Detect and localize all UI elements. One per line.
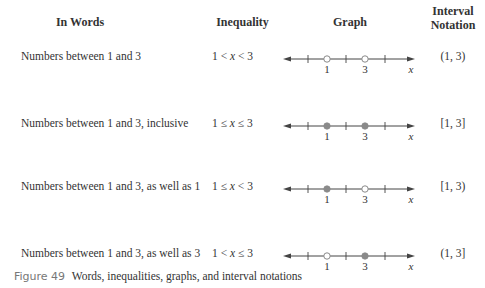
ineq-right: ≤ 3 <box>238 117 253 129</box>
tick-label-3: 3 <box>362 260 368 272</box>
right-arrow-icon <box>407 124 415 129</box>
row-interval-notation: [1, 3) <box>428 180 478 192</box>
row-inequality: 1 ≤ x ≤ 3 <box>212 117 253 129</box>
tick-label-3: 3 <box>362 193 368 205</box>
axis-variable-label: x <box>408 63 414 75</box>
header-interval-line1: Interval <box>428 4 478 18</box>
ineq-left: 1 < <box>212 50 227 62</box>
right-arrow-icon <box>407 57 415 62</box>
row-words: Numbers between 1 and 3, inclusive <box>21 117 188 129</box>
header-graph: Graph <box>320 15 380 29</box>
figure-label: Figure 49 <box>14 270 65 283</box>
caption-text: Words, inequalities, graphs, and interva… <box>72 270 302 282</box>
left-arrow-icon <box>283 124 291 129</box>
right-open-point <box>362 186 368 192</box>
tick-label-1: 1 <box>324 260 330 272</box>
header-inequality: Inequality <box>205 15 280 29</box>
row-inequality: 1 < x ≤ 3 <box>212 247 253 259</box>
row-interval-notation: (1, 3] <box>428 247 478 259</box>
ineq-right: ≤ 3 <box>238 247 253 259</box>
right-arrow-icon <box>407 187 415 192</box>
tick-label-1: 1 <box>324 63 330 75</box>
row-interval-notation: [1, 3] <box>428 117 478 129</box>
axis-variable-label: x <box>408 193 414 205</box>
ineq-variable: x <box>230 180 235 192</box>
right-closed-point <box>362 253 368 259</box>
ineq-variable: x <box>230 117 235 129</box>
row-inequality: 1 < x < 3 <box>212 50 253 62</box>
axis-variable-label: x <box>408 260 414 272</box>
right-arrow-icon <box>407 254 415 259</box>
left-open-point <box>324 56 330 62</box>
row-words: Numbers between 1 and 3 <box>21 50 141 62</box>
left-closed-point <box>324 123 330 129</box>
ineq-left: 1 ≤ <box>212 117 227 129</box>
row-inequality: 1 ≤ x < 3 <box>212 180 253 192</box>
row-interval-notation: (1, 3) <box>428 50 478 62</box>
tick-label-1: 1 <box>324 193 330 205</box>
figure-caption: Figure 49 Words, inequalities, graphs, a… <box>14 270 302 283</box>
ineq-left: 1 < <box>212 247 227 259</box>
tick-label-3: 3 <box>362 63 368 75</box>
axis-variable-label: x <box>408 130 414 142</box>
ineq-right: < 3 <box>238 180 253 192</box>
row-words: Numbers between 1 and 3, as well as 1 <box>21 180 200 192</box>
header-interval-line2: Notation <box>428 18 478 32</box>
left-open-point <box>324 253 330 259</box>
header-in-words: In Words <box>45 15 115 29</box>
right-closed-point <box>362 123 368 129</box>
header-interval-notation: Interval Notation <box>428 4 478 32</box>
ineq-left: 1 ≤ <box>212 180 227 192</box>
ineq-variable: x <box>230 50 235 62</box>
number-line-graph: 1 3 x <box>280 119 420 149</box>
ineq-right: < 3 <box>238 50 253 62</box>
left-closed-point <box>324 186 330 192</box>
left-arrow-icon <box>283 57 291 62</box>
tick-label-3: 3 <box>362 130 368 142</box>
number-line-graph: 1 3 x <box>280 52 420 82</box>
left-arrow-icon <box>283 187 291 192</box>
right-open-point <box>362 56 368 62</box>
left-arrow-icon <box>283 254 291 259</box>
ineq-variable: x <box>230 247 235 259</box>
number-line-graph: 1 3 x <box>280 182 420 212</box>
row-words: Numbers between 1 and 3, as well as 3 <box>21 247 200 259</box>
tick-label-1: 1 <box>324 130 330 142</box>
